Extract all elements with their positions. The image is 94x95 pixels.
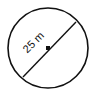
center-point [46,46,50,50]
circle-diagram: 25 m [0,0,94,95]
